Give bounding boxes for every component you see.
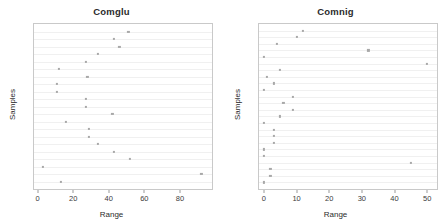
- x-tick: [427, 190, 428, 193]
- data-point: [273, 135, 275, 137]
- x-axis-label-comglu: Range: [0, 210, 223, 219]
- plot-area-comnig: [258, 23, 438, 190]
- gridline: [259, 64, 437, 65]
- data-point: [97, 143, 99, 145]
- data-point: [200, 173, 202, 175]
- data-point: [276, 43, 278, 45]
- data-point: [97, 53, 99, 55]
- data-point: [273, 129, 275, 131]
- x-tick-label: 20: [325, 194, 333, 203]
- data-point: [88, 135, 90, 137]
- x-tick: [394, 190, 395, 193]
- gridline: [34, 99, 212, 100]
- data-point: [88, 128, 90, 130]
- x-tick-label: 40: [390, 194, 398, 203]
- x-tick-label: 10: [292, 194, 300, 203]
- data-point: [56, 83, 58, 85]
- gridline: [259, 136, 437, 137]
- y-axis-label-comglu: Samples: [8, 80, 17, 130]
- x-tick: [179, 190, 180, 193]
- x-tick-label: 20: [69, 194, 77, 203]
- x-tick-label: 60: [140, 194, 148, 203]
- data-point: [58, 68, 60, 70]
- data-point: [410, 162, 412, 164]
- data-point: [263, 56, 265, 58]
- data-point: [85, 98, 87, 100]
- data-point: [111, 113, 113, 115]
- x-tick: [263, 190, 264, 193]
- x-tick: [73, 190, 74, 193]
- gridline: [259, 116, 437, 117]
- gridline: [34, 114, 212, 115]
- gridline: [259, 169, 437, 170]
- data-point: [273, 82, 275, 84]
- data-point: [65, 120, 67, 122]
- data-point: [266, 76, 268, 78]
- gridline: [34, 84, 212, 85]
- gridline: [34, 159, 212, 160]
- gridline: [259, 77, 437, 78]
- gridline: [34, 137, 212, 138]
- gridline: [259, 50, 437, 51]
- gridline: [34, 152, 212, 153]
- gridline: [34, 122, 212, 123]
- gridline: [259, 97, 437, 98]
- gridline: [34, 62, 212, 63]
- data-point: [118, 45, 120, 47]
- gridline: [259, 31, 437, 32]
- gridline: [259, 130, 437, 131]
- x-tick: [144, 190, 145, 193]
- gridline: [34, 167, 212, 168]
- panel-title-comnig: Comnig: [224, 6, 447, 17]
- data-point: [292, 109, 294, 111]
- data-point: [127, 30, 129, 32]
- x-axis-comglu: 020406080: [33, 190, 213, 204]
- data-point: [269, 175, 271, 177]
- data-point: [263, 122, 265, 124]
- data-point: [129, 158, 131, 160]
- gridline: [259, 156, 437, 157]
- data-point: [263, 181, 265, 183]
- data-point: [282, 102, 284, 104]
- gridline: [259, 83, 437, 84]
- gridline: [259, 103, 437, 104]
- gridline: [259, 44, 437, 45]
- data-point: [113, 38, 115, 40]
- data-point: [295, 36, 297, 38]
- gridline: [34, 54, 212, 55]
- gridline: [259, 176, 437, 177]
- x-tick: [329, 190, 330, 193]
- gridline: [259, 143, 437, 144]
- x-tick: [361, 190, 362, 193]
- x-tick: [108, 190, 109, 193]
- y-axis-label-comnig: Samples: [233, 80, 242, 130]
- data-point: [263, 89, 265, 91]
- panel-comglu: Comglu Samples 020406080 Range: [0, 0, 223, 223]
- gridline: [34, 174, 212, 175]
- x-axis-comnig: 01020304050: [258, 190, 438, 204]
- data-point: [60, 180, 62, 182]
- x-tick-label: 80: [176, 194, 184, 203]
- x-tick-label: 0: [262, 194, 266, 203]
- x-tick: [37, 190, 38, 193]
- data-point: [292, 96, 294, 98]
- data-point: [426, 63, 428, 65]
- gridline: [259, 110, 437, 111]
- gridline: [259, 57, 437, 58]
- gridline: [34, 39, 212, 40]
- data-point: [263, 148, 265, 150]
- gridline: [259, 37, 437, 38]
- gridline: [34, 144, 212, 145]
- gridline: [34, 92, 212, 93]
- data-point: [113, 150, 115, 152]
- x-tick: [296, 190, 297, 193]
- data-point: [302, 30, 304, 32]
- data-point: [263, 155, 265, 157]
- gridline: [259, 70, 437, 71]
- data-point: [279, 115, 281, 117]
- data-point: [85, 60, 87, 62]
- gridline: [34, 107, 212, 108]
- data-point: [367, 49, 369, 51]
- data-point: [279, 69, 281, 71]
- data-point: [273, 142, 275, 144]
